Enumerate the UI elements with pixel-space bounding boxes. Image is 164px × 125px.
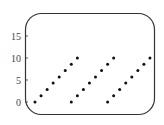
- data-point: [76, 57, 79, 60]
- data-point: [58, 75, 61, 78]
- data-point: [94, 75, 97, 78]
- data-point: [112, 57, 115, 60]
- plot-frame: [26, 14, 155, 115]
- y-tick-label: 15: [11, 31, 21, 42]
- data-point: [70, 101, 73, 104]
- data-point: [142, 63, 145, 66]
- data-point: [34, 101, 37, 104]
- data-point: [82, 88, 85, 91]
- data-point: [40, 94, 43, 97]
- data-points: [34, 57, 152, 104]
- y-tick-label: 5: [16, 75, 21, 86]
- data-point: [118, 88, 121, 91]
- y-tick-label: 0: [16, 97, 21, 108]
- data-point: [64, 69, 67, 72]
- y-tick-label: 10: [11, 53, 21, 64]
- data-point: [52, 82, 55, 85]
- data-point: [112, 94, 115, 97]
- data-point: [100, 69, 103, 72]
- data-point: [70, 63, 73, 66]
- data-point: [136, 69, 139, 72]
- data-point: [88, 82, 91, 85]
- data-point: [76, 94, 79, 97]
- data-point: [124, 82, 127, 85]
- data-point: [130, 75, 133, 78]
- data-point: [106, 101, 109, 104]
- sawtooth-scatter-chart: 051015: [0, 0, 164, 125]
- data-point: [148, 57, 151, 60]
- data-point: [46, 88, 49, 91]
- data-point: [106, 63, 109, 66]
